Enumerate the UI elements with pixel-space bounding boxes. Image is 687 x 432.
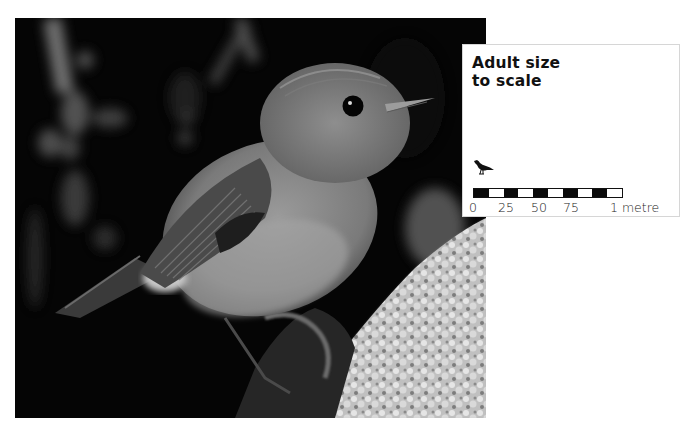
scale-label: 1 metre xyxy=(610,200,659,215)
scale-label: 0 xyxy=(469,200,477,215)
bird-silhouette-icon xyxy=(473,159,495,177)
scale-segment xyxy=(548,189,563,197)
scale-segment xyxy=(504,189,519,197)
panel-title-line1: Adult size xyxy=(472,54,560,72)
scale-bar xyxy=(473,188,623,198)
panel-title: Adult size to scale xyxy=(472,54,560,90)
scale-segment xyxy=(563,189,578,197)
scale-segment xyxy=(518,189,533,197)
scale-segment xyxy=(592,189,607,197)
scale-segment xyxy=(607,189,622,197)
scale-label: 25 xyxy=(498,200,514,215)
size-scale-panel: Adult size to scale 02550751 metre xyxy=(462,44,680,217)
photo-illustration xyxy=(15,18,486,418)
scale-label: 75 xyxy=(563,200,579,215)
scale-segment xyxy=(578,189,593,197)
scale-segment xyxy=(533,189,548,197)
scale-segment xyxy=(474,189,489,197)
scale-labels: 02550751 metre xyxy=(469,200,679,216)
panel-title-line2: to scale xyxy=(472,72,542,90)
scale-segment xyxy=(489,189,504,197)
scale-label: 50 xyxy=(531,200,547,215)
bird-photo xyxy=(15,18,486,418)
